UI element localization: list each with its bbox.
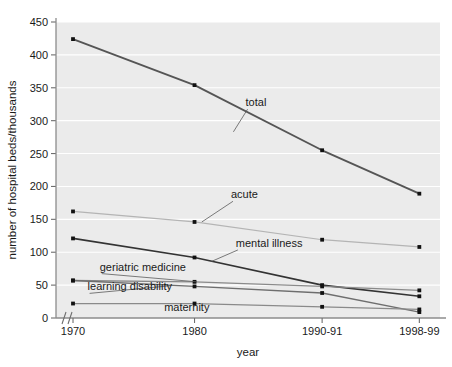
chart-canvas: 050100150200250300350400450 197019801990…	[0, 0, 452, 367]
data-point	[193, 256, 197, 260]
y-tick-label: 150	[30, 213, 48, 225]
series-label-maternity: maternity	[164, 301, 210, 313]
series-label-geriatric-medicine: geriatric medicine	[100, 261, 186, 273]
y-tick-label: 250	[30, 148, 48, 160]
data-point	[417, 192, 421, 196]
data-point	[71, 237, 75, 241]
data-point	[193, 220, 197, 224]
y-tick-label: 450	[30, 16, 48, 28]
y-tick-label: 100	[30, 246, 48, 258]
hospital-beds-line-chart: 050100150200250300350400450 197019801990…	[0, 0, 452, 367]
series-label-acute: acute	[231, 188, 258, 200]
x-tick-label: 1998-99	[399, 325, 439, 337]
y-tick-label: 50	[36, 279, 48, 291]
x-tick-label: 1980	[182, 325, 206, 337]
y-axis-title: number of hospital beds/thousands	[6, 80, 18, 259]
data-point	[320, 305, 324, 309]
x-tick-label: 1990-91	[302, 325, 342, 337]
y-tick-label: 400	[30, 49, 48, 61]
data-point	[320, 148, 324, 152]
plot-background	[56, 22, 440, 318]
plot-area-background	[56, 22, 440, 318]
y-tick-label: 300	[30, 115, 48, 127]
y-tick-label: 350	[30, 82, 48, 94]
x-tick-label: 1970	[61, 325, 85, 337]
data-point	[193, 83, 197, 87]
data-point	[320, 291, 324, 295]
data-point	[71, 210, 75, 214]
series-label-total: total	[246, 96, 267, 108]
data-point	[417, 294, 421, 298]
y-axis: 050100150200250300350400450	[30, 16, 56, 324]
data-point	[71, 279, 75, 283]
series-label-mental-illness: mental illness	[236, 237, 303, 249]
x-axis-title: year	[237, 346, 260, 358]
data-point	[71, 302, 75, 306]
data-point	[320, 238, 324, 242]
data-point	[417, 288, 421, 292]
data-point	[320, 285, 324, 289]
y-tick-label: 200	[30, 180, 48, 192]
data-point	[71, 37, 75, 41]
data-point	[417, 308, 421, 312]
series-label-learning-disability: learning disability	[88, 280, 173, 292]
y-tick-label: 0	[42, 312, 48, 324]
data-point	[193, 285, 197, 289]
data-point	[417, 245, 421, 249]
